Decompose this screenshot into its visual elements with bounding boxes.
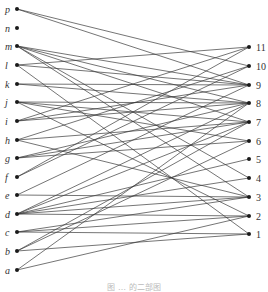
edge-layer xyxy=(17,9,249,270)
edge-d-7 xyxy=(17,122,249,214)
right-node-9 xyxy=(247,83,251,87)
left-node-c xyxy=(15,230,19,234)
right-node-7 xyxy=(247,120,251,124)
left-node-i xyxy=(15,119,19,123)
right-node-label: 10 xyxy=(256,61,266,72)
right-node-label: 4 xyxy=(256,173,261,184)
right-node-label: 7 xyxy=(256,117,261,128)
left-node-label: k xyxy=(5,79,10,90)
left-node-label: b xyxy=(5,246,10,257)
left-node-m xyxy=(15,44,19,48)
right-node-label: 9 xyxy=(256,80,261,91)
right-node-2 xyxy=(247,214,251,218)
right-node-label: 1 xyxy=(256,229,261,240)
right-node-1 xyxy=(247,232,251,236)
edge-e-9 xyxy=(17,85,249,195)
left-node-f xyxy=(15,175,19,179)
left-node-j xyxy=(15,100,19,104)
edge-h-7 xyxy=(17,122,249,140)
edge-l-9 xyxy=(17,65,249,85)
right-node-label: 11 xyxy=(256,42,266,53)
edge-p-9 xyxy=(17,9,249,85)
left-node-g xyxy=(15,156,19,160)
edge-a-8 xyxy=(17,103,249,270)
edge-f-10 xyxy=(17,66,249,177)
left-node-label: n xyxy=(5,23,10,34)
edge-k-8 xyxy=(17,84,249,103)
edge-l-11 xyxy=(17,47,249,65)
left-node-label: a xyxy=(5,265,10,276)
right-node-label: 8 xyxy=(256,98,261,109)
right-node-label: 5 xyxy=(256,154,261,165)
right-node-label: 3 xyxy=(256,192,261,203)
left-node-e xyxy=(15,193,19,197)
left-node-label: d xyxy=(5,209,11,220)
right-node-10 xyxy=(247,64,251,68)
left-node-a xyxy=(15,268,19,272)
left-node-label: h xyxy=(5,135,10,146)
left-node-label: l xyxy=(5,60,8,71)
edge-c-1 xyxy=(17,232,249,234)
left-node-n xyxy=(15,26,19,30)
left-node-label: e xyxy=(5,190,10,201)
edge-h-3 xyxy=(17,140,249,197)
left-node-d xyxy=(15,212,19,216)
right-node-5 xyxy=(247,157,251,161)
edge-b-1 xyxy=(17,234,249,251)
left-node-p xyxy=(15,7,19,11)
right-node-label: 6 xyxy=(256,136,261,147)
left-node-l xyxy=(15,63,19,67)
right-node-11 xyxy=(247,45,251,49)
edge-m-8 xyxy=(17,46,249,103)
left-node-b xyxy=(15,249,19,253)
left-node-label: j xyxy=(3,97,8,108)
left-node-label: p xyxy=(4,4,10,15)
left-node-k xyxy=(15,82,19,86)
right-node-3 xyxy=(247,195,251,199)
left-node-label: c xyxy=(5,227,10,238)
left-node-label: f xyxy=(5,172,9,183)
left-node-h xyxy=(15,138,19,142)
left-node-label: i xyxy=(5,116,8,127)
right-node-label: 2 xyxy=(256,211,261,222)
right-node-8 xyxy=(247,101,251,105)
left-node-label: m xyxy=(5,41,12,52)
right-node-6 xyxy=(247,139,251,143)
left-node-label: g xyxy=(5,153,10,164)
right-node-4 xyxy=(247,176,251,180)
figure-caption: 图 … 的二部图 xyxy=(0,281,268,292)
